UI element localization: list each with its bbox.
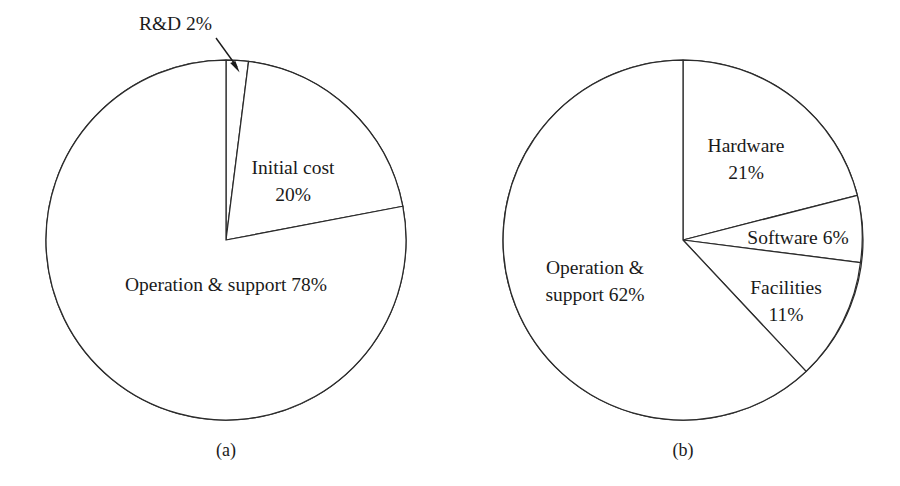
pie-charts-figure: R&D 2% Initial cost 20% Operation & supp… xyxy=(0,0,900,486)
pie-a-label-initial-cost-value: 20% xyxy=(275,184,311,205)
pie-b-label-facilities-value: 11% xyxy=(768,304,803,325)
pie-b-label-operation-support-value: support 62% xyxy=(545,284,644,305)
pie-a-label-operation-support: Operation & support 78% xyxy=(125,274,327,295)
pie-chart-b: Hardware 21% Software 6% Facilities 11% … xyxy=(503,60,863,461)
pie-chart-a: R&D 2% Initial cost 20% Operation & supp… xyxy=(46,13,406,461)
pie-a-label-initial-cost-name: Initial cost xyxy=(252,157,335,178)
pie-b-label-software: Software 6% xyxy=(747,227,848,248)
figure-root: R&D 2% Initial cost 20% Operation & supp… xyxy=(0,0,900,486)
pie-a-label-rd: R&D 2% xyxy=(139,13,212,34)
pie-b-label-hardware-name: Hardware xyxy=(708,135,785,156)
panel-caption-b: (b) xyxy=(673,440,694,461)
pie-b-label-operation-support-name: Operation & xyxy=(546,257,644,278)
pie-b-label-facilities-name: Facilities xyxy=(750,277,822,298)
panel-caption-a: (a) xyxy=(216,440,236,461)
pie-b-label-hardware-value: 21% xyxy=(728,162,764,183)
